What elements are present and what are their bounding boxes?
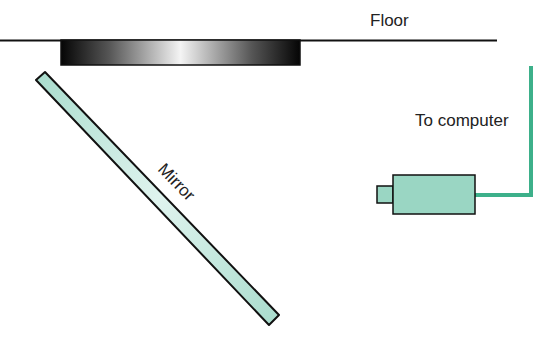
floor-plate [61,40,300,65]
to-computer-label: To computer [415,111,509,130]
mirror-camera-setup-diagram: Floor Mirror To computer [0,0,545,342]
mirror [36,72,279,325]
floor-label: Floor [370,11,409,30]
cable-to-computer [475,66,531,195]
camera-lens [377,186,393,203]
camera-body [393,175,475,214]
